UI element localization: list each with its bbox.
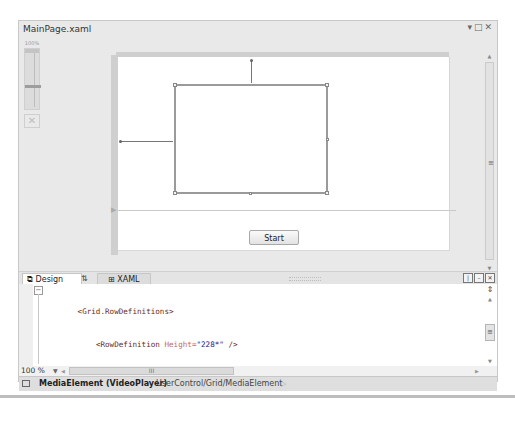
zoom-slider-line [34,53,35,107]
window-controls: ▾□✕ [467,22,494,32]
editor-zoom-combo[interactable]: 100 % [21,366,45,376]
page-divider [0,395,515,398]
code-line: <Grid.RowDefinitions> [41,306,481,317]
tab-design-label: Design [36,275,64,284]
pane-splitter[interactable] [289,277,321,281]
margin-anchor-top-icon [250,59,253,62]
tab-xaml-label: XAML [117,275,139,284]
design-artboard[interactable]: ▶ Start [118,57,450,251]
resize-handle-bottom[interactable] [249,192,252,195]
view-tab-bar: ⧉ Design ⇅ ⊞ XAML |–✕ [19,271,497,285]
scroll-grip-icon[interactable]: ≡ [488,159,494,167]
zoom-slider-top [25,49,39,53]
code-vertical-scrollbar[interactable]: ⇕ ▲ ≡ ▼ [485,284,495,366]
maximize-icon[interactable]: □ [474,22,485,32]
breadcrumb-arrow-icon[interactable]: ▷ [281,377,286,391]
fit-to-screen-icon[interactable]: ✕ [24,114,40,128]
pane-layout-buttons: |–✕ [462,273,495,283]
xaml-designer-window: MainPage.xaml ▾□✕ 100% ✕ ▶ Start ▲ [18,20,498,382]
element-path-breadcrumb[interactable]: UserControl/Grid/MediaElement [156,377,282,391]
zoom-slider-thumb[interactable] [25,85,41,88]
editor-bottom-bar: 100 % ▼ ◀ III ▶ [19,366,497,376]
scroll-left-icon[interactable]: ◀ [61,366,65,376]
scroll-down-icon[interactable]: ▼ [485,358,495,364]
scroll-thumb[interactable]: ≡ [485,324,495,341]
row-ruler[interactable] [111,55,118,255]
resize-handle-br[interactable] [325,191,329,195]
start-button[interactable]: Start [249,230,299,245]
resize-handle-tl[interactable] [173,83,177,87]
zoom-slider-panel: 100% ✕ [24,40,40,132]
scroll-up-icon[interactable]: ▲ [485,53,494,59]
selected-element-label[interactable]: MediaElement (VideoPlayer) [39,377,167,391]
editor-gutter [19,284,33,366]
scroll-right-icon[interactable]: ▶ [475,366,479,376]
document-title: MainPage.xaml [23,24,91,34]
margin-anchor-left-icon [119,140,122,143]
code-text[interactable]: <Grid.RowDefinitions> <RowDefinition Hei… [41,284,481,366]
horizontal-split-icon[interactable]: – [474,273,484,283]
resize-handle-right[interactable] [326,138,329,141]
resize-handle-bl[interactable] [173,191,177,195]
split-editor-icon[interactable]: ⇕ [485,285,495,294]
scroll-up-icon[interactable]: ▲ [485,296,495,302]
close-icon[interactable]: ✕ [484,22,494,32]
grid-row-divider[interactable] [118,210,456,211]
row-marker-icon[interactable]: ▶ [111,206,116,214]
media-element[interactable] [174,84,328,194]
outline-line [38,294,39,364]
code-line: <RowDefinition Height="228*" /> [41,339,481,350]
chevron-down-icon[interactable]: ▼ [53,366,58,376]
resize-handle-tr[interactable] [325,83,329,87]
xaml-icon: ⊞ [108,275,115,284]
selection-breadcrumb-bar: MediaElement (VideoPlayer) UserControl/G… [19,376,497,391]
horizontal-scroll-thumb[interactable]: III [69,367,234,375]
design-vertical-scrollbar[interactable]: ▲ ≡ ▼ [485,53,494,271]
scroll-track[interactable]: ≡ [485,62,494,260]
zoom-slider[interactable] [24,48,40,110]
vertical-split-icon[interactable]: | [463,273,473,283]
collapse-pane-icon[interactable]: ✕ [485,273,495,283]
left-margin-adorner [120,141,173,142]
element-icon [22,380,30,387]
design-icon: ⧉ [27,275,33,284]
zoom-level-label: 100% [24,40,40,47]
top-margin-adorner [251,60,252,83]
xaml-code-editor[interactable]: − <Grid.RowDefinitions> <RowDefinition H… [19,284,497,366]
